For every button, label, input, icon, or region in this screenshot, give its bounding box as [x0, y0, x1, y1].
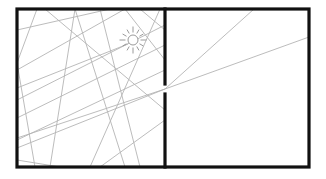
- light-ray: [17, 9, 37, 63]
- light-ray: [17, 25, 165, 100]
- light-ray: [17, 70, 165, 140]
- light-ray-through-gap: [17, 89, 165, 138]
- outer-wall: [17, 9, 309, 167]
- light-ray: [125, 9, 165, 60]
- sun-beam: [137, 30, 139, 34]
- light-ray: [17, 9, 110, 30]
- light-ray-through-gap: [17, 89, 165, 148]
- diagram-canvas: [0, 0, 326, 179]
- light-ray: [100, 9, 140, 167]
- light-rays-diagram: [0, 0, 326, 179]
- light-ray-through-gap: [165, 37, 309, 89]
- sun-beam: [127, 30, 129, 34]
- sun-beam: [123, 34, 127, 36]
- sun-beam: [139, 44, 143, 46]
- light-ray: [50, 9, 75, 167]
- light-ray: [17, 45, 165, 118]
- room-walls: [17, 9, 309, 167]
- light-ray: [17, 44, 128, 88]
- rays-through-gap: [17, 9, 309, 148]
- sun-beam: [137, 46, 139, 50]
- rays-left-room: [17, 9, 165, 167]
- light-ray: [17, 63, 35, 167]
- light-ray: [100, 120, 165, 167]
- light-ray-through-gap: [165, 9, 254, 89]
- light-ray: [90, 9, 160, 167]
- sun-beam: [127, 46, 129, 50]
- sun-disc: [128, 35, 138, 45]
